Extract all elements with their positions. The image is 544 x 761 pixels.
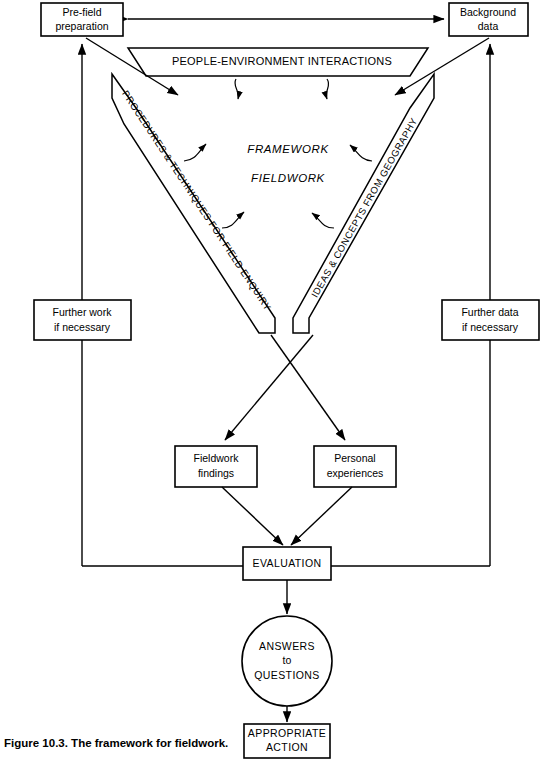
action-label-line1: APPROPRIATE [248, 727, 326, 739]
arrow-cross-to-fieldwork-findings [225, 335, 313, 440]
prefield-label-line2: preparation [55, 20, 108, 32]
figure-canvas: Pre-field preparation Background data PE… [0, 0, 544, 761]
arrow-left-bar-to-center-lower [222, 212, 244, 228]
arrow-cross-to-personal-experiences [271, 335, 345, 440]
fieldwork-findings-label-line2: findings [198, 467, 234, 479]
prefield-label-line1: Pre-field [62, 6, 101, 18]
further-work-label-line2: if necessary [54, 321, 111, 333]
arrow-left-bar-to-center-upper [184, 144, 206, 161]
arrow-experiences-to-evaluation [291, 487, 352, 545]
background-label-line2: data [478, 20, 499, 32]
framework-diagram: Pre-field preparation Background data PE… [0, 0, 544, 761]
arrow-banner-down-left [235, 79, 238, 99]
figure-caption: Figure 10.3. The framework for fieldwork… [4, 737, 228, 749]
further-data-label-line2: if necessary [462, 321, 519, 333]
arrow-right-bar-to-center-lower [312, 213, 334, 228]
personal-experiences-label-line1: Personal [334, 452, 375, 464]
banner-label: PEOPLE-ENVIRONMENT INTERACTIONS [172, 55, 392, 67]
background-label-line1: Background [460, 6, 516, 18]
fieldwork-findings-label-line1: Fieldwork [194, 452, 240, 464]
center-label-line1: FRAMEWORK [247, 143, 329, 155]
center-label-line2: FIELDWORK [251, 172, 325, 184]
action-label-line2: ACTION [266, 741, 308, 753]
answers-label-line1: ANSWERS [259, 640, 315, 652]
answers-label-line2: to [283, 654, 292, 666]
further-work-label-line1: Further work [53, 306, 113, 318]
left-bar-label: PROCEDURES & TECHNIQUES FOR FIELD ENQUIR… [120, 88, 274, 312]
further-data-label-line1: Further data [461, 306, 518, 318]
evaluation-label: EVALUATION [253, 557, 322, 569]
arrow-right-bar-to-center-upper [350, 145, 372, 161]
arrow-findings-to-evaluation [222, 487, 283, 545]
arrow-banner-down-right [326, 79, 328, 99]
answers-label-line3: QUESTIONS [254, 669, 319, 681]
personal-experiences-label-line2: experiences [327, 467, 384, 479]
